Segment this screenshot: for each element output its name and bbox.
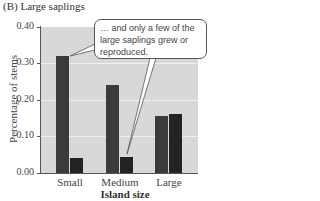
callout-annotation: … and only a few of the large saplings g… xyxy=(94,19,207,59)
